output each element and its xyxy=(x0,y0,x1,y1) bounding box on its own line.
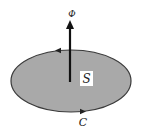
flux-arrowhead-icon xyxy=(66,20,74,29)
curve-label: C xyxy=(79,116,88,129)
flux-label: Φ xyxy=(68,9,75,19)
flux-diagram: S Φ C xyxy=(0,0,141,132)
surface-label: S xyxy=(82,72,90,86)
